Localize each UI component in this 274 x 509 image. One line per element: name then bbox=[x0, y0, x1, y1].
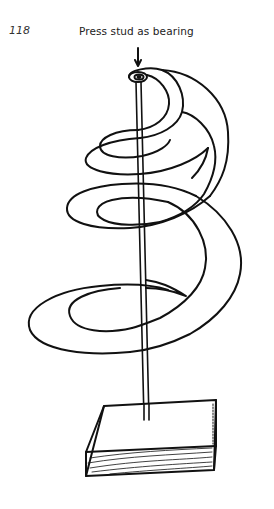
spiral-illustration bbox=[0, 0, 274, 509]
arrow-pointer-icon bbox=[135, 48, 141, 66]
wooden-base-icon bbox=[86, 400, 216, 476]
rod-icon bbox=[136, 82, 149, 423]
